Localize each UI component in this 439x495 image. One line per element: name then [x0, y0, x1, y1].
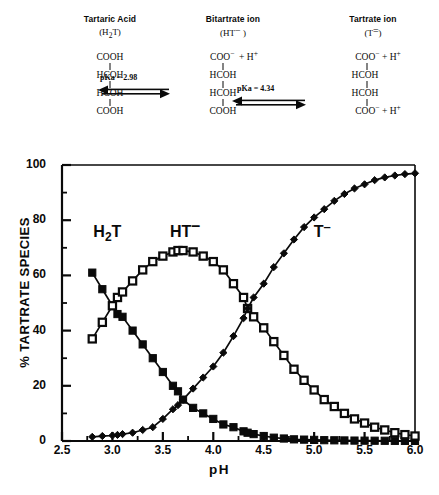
species-abbr-bitartrate-ion: (HT− )	[178, 27, 288, 39]
structure-line: COO− + H+	[322, 52, 434, 63]
structure-line: COOH	[60, 106, 160, 117]
structure-line: COO− + H+	[322, 106, 434, 117]
structure-line: HCOH	[178, 70, 290, 81]
structure-line: COOH	[60, 52, 160, 63]
x-tick-label: 5.5	[343, 443, 387, 457]
x-tick-label: 4.5	[242, 443, 286, 457]
x-tick-label: 3.5	[141, 443, 185, 457]
structure-tartrate-ion: COO− + H+ HCOH HCOH COO− + H+	[322, 52, 434, 117]
y-tick-label: 60	[6, 267, 46, 281]
species-abbr-tartaric-acid: (H2T)	[55, 27, 165, 38]
x-tick-label: 3.0	[90, 443, 134, 457]
species-title-bitartrate-ion: Bitartrate ion	[178, 14, 288, 25]
equilibrium-arrow-1	[98, 84, 172, 100]
structure-line: COO− + H+	[178, 52, 290, 63]
bond-line	[60, 63, 160, 70]
series-annotation-HT-: HT–	[170, 217, 200, 240]
x-tick-label: 2.5	[40, 443, 84, 457]
equilibrium-scheme: Tartaric Acid (H2T) COOH HCOH HCOH COOH …	[0, 0, 439, 155]
y-tick-label: 80	[6, 212, 46, 226]
pka-label-2: pKa = 4.34	[237, 84, 274, 93]
bond-line	[60, 99, 160, 106]
x-tick-label: 4.0	[191, 443, 235, 457]
series-annotation-T=: T–	[314, 219, 331, 240]
speciation-chart: % TARTRATE SPECIES pH 020406080100 2.53.…	[0, 155, 439, 495]
x-axis-ticks: 2.53.03.54.04.55.05.56.0	[0, 443, 439, 463]
structure-line: HCOH	[322, 70, 434, 81]
bond-line	[322, 63, 434, 70]
x-tick-label: 5.0	[292, 443, 336, 457]
structure-line: HCOH	[322, 88, 434, 99]
bond-line	[322, 81, 434, 88]
series-HT-	[89, 247, 419, 440]
species-title-tartrate-ion: Tartrate ion	[318, 14, 428, 25]
series-T=	[89, 170, 419, 441]
equilibrium-arrow-2	[232, 95, 308, 111]
series-annotation-H2T: H2T	[93, 223, 121, 244]
x-tick-label: 6.0	[393, 443, 437, 457]
species-abbr-tartrate-ion: (T=)	[318, 27, 428, 39]
pka-label-1: pKa = 2.98	[100, 73, 137, 82]
species-title-tartaric-acid: Tartaric Acid	[55, 14, 165, 25]
y-tick-label: 40	[6, 323, 46, 337]
figure-root: Tartaric Acid (H2T) COOH HCOH HCOH COOH …	[0, 0, 439, 495]
x-axis-label: pH	[0, 462, 439, 477]
y-tick-label: 100	[6, 157, 46, 171]
bond-line	[178, 63, 290, 70]
y-tick-label: 20	[6, 378, 46, 392]
